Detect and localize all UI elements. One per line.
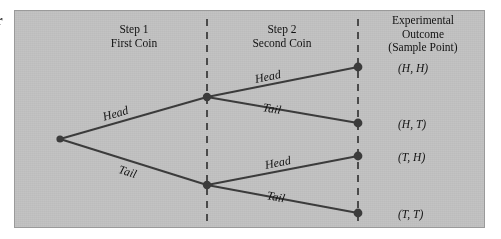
header-outcome-line2: Outcome: [364, 28, 482, 42]
outcome-label-th: (T, H): [398, 151, 425, 163]
node-outcome-tt: [354, 209, 363, 218]
node-tail: [203, 181, 211, 189]
branch-root-head: [60, 97, 207, 139]
node-outcome-ht: [354, 119, 363, 128]
figure-page: r Step 1 First Coin: [0, 0, 501, 239]
node-root: [56, 135, 63, 142]
header-step1: Step 1 First Coin: [69, 23, 199, 50]
header-outcome-line1: Experimental: [364, 14, 482, 28]
branch-head-head: [207, 67, 358, 97]
node-outcome-hh: [354, 63, 363, 72]
header-outcome-line3: (Sample Point): [364, 41, 482, 55]
header-step2-line1: Step 2: [217, 23, 347, 37]
header-step2-line2: Second Coin: [217, 37, 347, 51]
edge-label-step2-tail-lower: Tail: [266, 189, 286, 204]
node-head: [203, 93, 211, 101]
outcome-label-tt: (T, T): [398, 208, 423, 220]
node-outcome-th: [354, 152, 363, 161]
branch-head-tail: [207, 97, 358, 123]
outcome-label-hh: (H, H): [398, 62, 428, 74]
header-outcome: Experimental Outcome (Sample Point): [364, 14, 482, 55]
header-step1-line1: Step 1: [69, 23, 199, 37]
header-step2: Step 2 Second Coin: [217, 23, 347, 50]
header-step1-line2: First Coin: [69, 37, 199, 51]
outcome-label-ht: (H, T): [398, 118, 426, 130]
figure-frame: Step 1 First Coin Step 2 Second Coin Exp…: [14, 10, 485, 228]
edge-label-step2-tail-upper: Tail: [262, 101, 282, 116]
margin-partial-glyph: r: [0, 10, 9, 30]
